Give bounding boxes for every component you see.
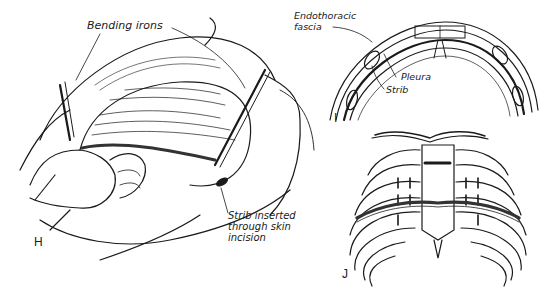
label-bending-irons: Bending irons (87, 20, 163, 31)
medical-illustration (0, 0, 544, 293)
label-pleura: Pleura (401, 72, 431, 82)
panel-letter-j: J (342, 268, 348, 280)
label-fascia: fascia (294, 22, 322, 32)
label-incision: incision (228, 233, 266, 243)
panel-letter-h: H (34, 236, 43, 248)
label-endothoracic: Endothoracic (294, 11, 356, 21)
label-strib-inserted: Strib inserted (228, 211, 296, 221)
label-strib: Strib (386, 85, 408, 95)
panel-letter-i: I (334, 112, 337, 124)
label-through-skin: through skin (228, 222, 291, 232)
panel-j-drawing (350, 132, 526, 286)
panel-i-drawing (280, 22, 538, 150)
